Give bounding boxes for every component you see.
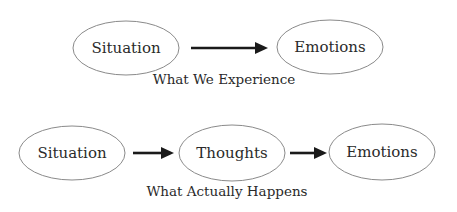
bottom-node-situation: Situation <box>19 126 125 180</box>
node-label: Thoughts <box>196 144 267 162</box>
arrow-icon <box>290 147 327 159</box>
node-label: Emotions <box>294 38 365 56</box>
cbt-diagram: Situation Emotions What We Experience Si… <box>0 0 457 212</box>
bottom-diagram: Situation Thoughts Emotions What Actuall… <box>19 124 435 199</box>
bottom-node-emotions: Emotions <box>329 124 435 180</box>
node-label: Situation <box>37 144 107 162</box>
bottom-node-thoughts: Thoughts <box>179 125 285 181</box>
node-label: Situation <box>91 39 161 57</box>
top-caption: What We Experience <box>153 71 296 87</box>
top-node-situation: Situation <box>73 21 179 75</box>
top-diagram: Situation Emotions What We Experience <box>73 20 383 87</box>
bottom-caption: What Actually Happens <box>146 183 307 199</box>
arrow-icon <box>133 147 174 159</box>
arrow-icon <box>191 42 268 54</box>
top-node-emotions: Emotions <box>277 20 383 74</box>
node-label: Emotions <box>346 143 417 161</box>
